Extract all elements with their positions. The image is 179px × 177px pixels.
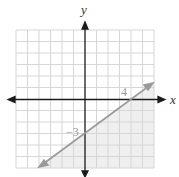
- y-axis-label: y: [81, 2, 87, 18]
- x-axis-label: x: [170, 92, 176, 108]
- x-intercept-label: 4: [121, 85, 127, 100]
- coordinate-graph: [0, 0, 179, 177]
- y-intercept-label: −3: [66, 125, 79, 140]
